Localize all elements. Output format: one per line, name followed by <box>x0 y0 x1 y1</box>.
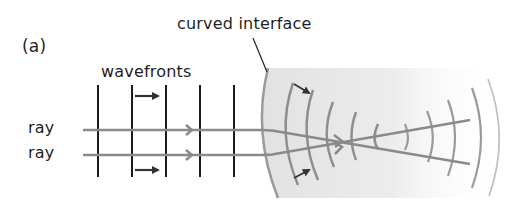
incoming-rays <box>83 130 262 155</box>
medium-region <box>262 68 500 198</box>
ray-label-bottom: ray <box>28 145 54 161</box>
panel-label: (a) <box>22 38 46 55</box>
propagation-arrow-icon <box>135 96 158 170</box>
interface-leader-line <box>253 38 267 72</box>
diagram-refraction-curved-interface: (a) curved interface wavefronts ray ray <box>0 0 529 204</box>
wavefronts-label: wavefronts <box>101 64 192 80</box>
curved-interface-label: curved interface <box>177 16 312 32</box>
ray-label-top: ray <box>28 120 54 136</box>
